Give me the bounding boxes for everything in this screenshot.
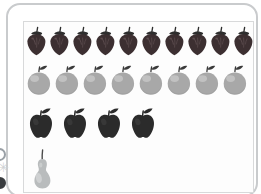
orange-icon bbox=[82, 64, 110, 97]
orange-icon bbox=[138, 64, 166, 97]
strawberry-icon bbox=[164, 26, 187, 56]
pictograph-row-strawberry: strawberry 10 bbox=[26, 24, 254, 56]
pear-icon bbox=[28, 148, 62, 190]
orange-icon bbox=[166, 64, 194, 97]
strawberry-icon bbox=[26, 26, 49, 56]
apple-icon bbox=[128, 106, 162, 142]
strawberry-icon bbox=[233, 26, 254, 56]
strawberry-icon bbox=[72, 26, 95, 56]
pictograph-plot-area: strawberry 10 bbox=[23, 21, 254, 193]
strawberry-icon bbox=[118, 26, 141, 56]
pictograph-row-orange: orange 8 bbox=[26, 61, 250, 97]
orange-icon bbox=[194, 64, 222, 97]
apple-icon bbox=[60, 106, 94, 142]
pictograph-row-pear: pear 1 bbox=[28, 146, 62, 190]
strawberry-icon bbox=[187, 26, 210, 56]
apple-icon bbox=[94, 106, 128, 142]
apple-icon bbox=[26, 106, 60, 142]
strawberry-icon bbox=[210, 26, 233, 56]
strawberry-icon bbox=[49, 26, 72, 56]
sparkle-icon: ✳ bbox=[0, 161, 10, 175]
orange-icon bbox=[222, 64, 250, 97]
orange-icon bbox=[54, 64, 82, 97]
pictograph-row-apple: apple 4 bbox=[26, 104, 162, 142]
orange-icon bbox=[26, 64, 54, 97]
orange-icon bbox=[110, 64, 138, 97]
chart-card-frame: strawberry 10 bbox=[6, 3, 258, 194]
strawberry-icon bbox=[141, 26, 164, 56]
strawberry-icon bbox=[95, 26, 118, 56]
